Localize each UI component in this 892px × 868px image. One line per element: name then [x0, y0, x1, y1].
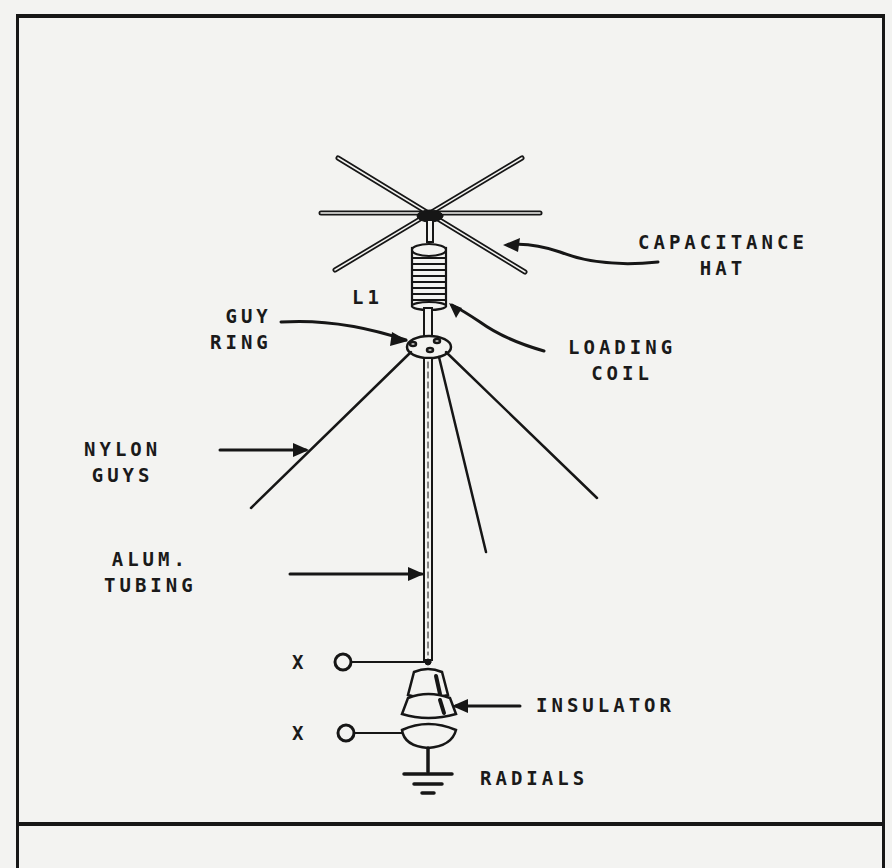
label-line: CAPACITANCE — [638, 229, 808, 255]
label-guy-ring: GUY RING — [210, 303, 272, 355]
label-line: RING — [210, 329, 272, 355]
loading-coil — [412, 244, 446, 310]
label-line: NYLON — [84, 436, 161, 462]
label-line: LOADING — [568, 334, 676, 360]
label-line: GUY — [210, 303, 272, 329]
label-x-top: X — [292, 649, 307, 675]
label-line: TUBING — [104, 572, 197, 598]
label-line: COIL — [568, 360, 676, 386]
label-x-bottom: X — [292, 720, 307, 746]
aluminum-tubing — [424, 358, 432, 660]
label-line: GUYS — [84, 462, 161, 488]
label-alum-tubing: ALUM. TUBING — [104, 546, 197, 598]
insulator — [402, 669, 456, 748]
label-radials: RADIALS — [480, 765, 588, 791]
label-nylon-guys: NYLON GUYS — [84, 436, 161, 488]
label-loading-coil: LOADING COIL — [568, 334, 676, 386]
label-capacitance-hat: CAPACITANCE HAT — [638, 229, 808, 281]
label-insulator: INSULATOR — [536, 692, 675, 718]
antenna-drawing — [0, 0, 892, 868]
label-line: HAT — [638, 255, 808, 281]
terminal-top — [335, 654, 351, 670]
guy-ring — [407, 336, 451, 358]
ground-symbol — [404, 748, 452, 793]
label-l1: L1 — [352, 284, 383, 310]
terminal-bottom — [338, 725, 354, 741]
label-line: ALUM. — [104, 546, 197, 572]
